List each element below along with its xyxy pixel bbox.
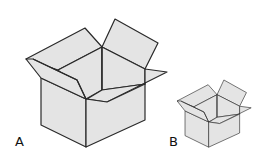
label-b: B (169, 135, 178, 148)
box-b (177, 80, 251, 147)
boxes-figure (0, 0, 276, 152)
box-a (26, 19, 167, 147)
label-a: A (15, 135, 24, 148)
